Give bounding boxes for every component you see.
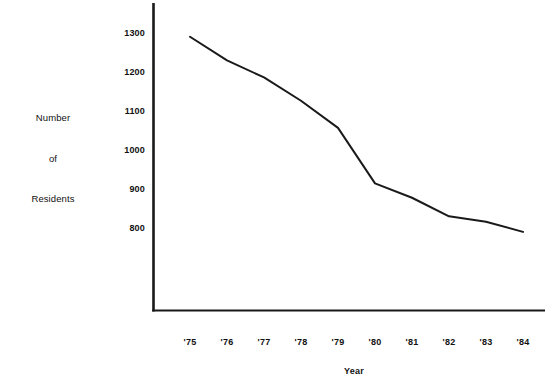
- plot-area: [0, 0, 559, 389]
- data-series-line: [190, 37, 523, 232]
- line-chart: Number of Residents 1300 1200 1100 1000 …: [0, 0, 559, 389]
